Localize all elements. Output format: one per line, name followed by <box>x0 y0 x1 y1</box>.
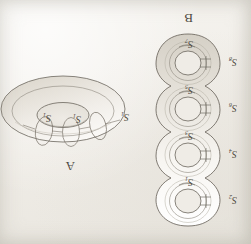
figure-page: S1 S1 S1 A <box>0 0 251 244</box>
genus4-label-outer-1: S2 <box>229 194 237 206</box>
panel-a-caption: A <box>65 159 75 174</box>
genus4-label-outer-3: S6 <box>229 102 237 114</box>
figure-svg: S1 S1 S1 A <box>0 0 251 244</box>
genus4-hole-1 <box>175 189 201 213</box>
genus4-hole-3 <box>175 97 201 121</box>
genus4-hole-2 <box>175 143 201 167</box>
panel-a-torus: S1 S1 S1 A <box>1 76 129 174</box>
genus4-hole-4 <box>175 51 201 75</box>
panel-b-genus4: S2 S1 S4 S3 <box>156 11 237 226</box>
panel-b-caption: B <box>184 11 193 26</box>
genus4-label-outer-2: S4 <box>229 148 237 160</box>
genus4-label-outer-4: S8 <box>229 56 237 68</box>
figure-plate-rotated: S1 S1 S1 A <box>0 0 251 244</box>
